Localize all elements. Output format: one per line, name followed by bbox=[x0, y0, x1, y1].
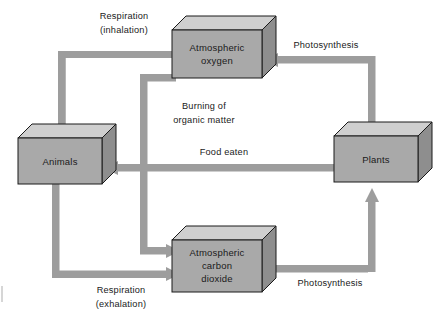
arrow-respiration-exhalation bbox=[52, 180, 180, 281]
edge-label-line: Respiration bbox=[97, 285, 146, 295]
edge-label-line: Burning of bbox=[182, 101, 226, 111]
edge-label-line: Photosynthesis bbox=[293, 40, 358, 50]
edge-label-burning-of-organic-matter: Burning of organic matter bbox=[173, 101, 235, 125]
node-label-line: Atmospheric bbox=[190, 247, 245, 258]
edge-label-line: Photosynthesis bbox=[297, 278, 362, 288]
arrow-photosynthesis-carbon-dioxide bbox=[276, 188, 379, 273]
node-label-line: carbon bbox=[202, 260, 232, 271]
node-animals[interactable]: Animals bbox=[18, 124, 116, 184]
box-top-face bbox=[334, 122, 432, 136]
box-top-face bbox=[172, 16, 276, 30]
box-top-face bbox=[18, 124, 116, 138]
edge-label-line: Respiration bbox=[100, 11, 149, 21]
node-atmospheric-carbon-dioxide[interactable]: Atmospheric carbon dioxide bbox=[172, 226, 276, 292]
node-label-line: Animals bbox=[42, 156, 77, 167]
diagram-canvas: Atmospheric oxygen Animals Plants Atmosp… bbox=[0, 0, 433, 324]
page-edge-artifact bbox=[1, 286, 3, 302]
edge-label-photosynthesis-carbon-dioxide: Photosynthesis bbox=[297, 278, 362, 288]
node-label-line: dioxide bbox=[201, 273, 233, 284]
cycle-diagram: Atmospheric oxygen Animals Plants Atmosp… bbox=[0, 0, 433, 324]
node-label-line: Plants bbox=[362, 154, 390, 165]
edge-label-respiration-exhalation: Respiration (exhalation) bbox=[96, 285, 146, 309]
edge-label-line: (exhalation) bbox=[96, 299, 146, 309]
edge-label-line: organic matter bbox=[173, 115, 235, 125]
node-plants[interactable]: Plants bbox=[334, 122, 432, 182]
edge-label-line: Food eaten bbox=[200, 147, 249, 157]
edge-label-line: (inhalation) bbox=[100, 25, 148, 35]
node-label-line: Atmospheric bbox=[190, 42, 245, 53]
box-top-face bbox=[172, 226, 276, 240]
edge-label-food-eaten: Food eaten bbox=[200, 147, 249, 157]
edge-label-photosynthesis-oxygen: Photosynthesis bbox=[293, 40, 358, 50]
arrow-food-eaten bbox=[104, 161, 336, 175]
node-atmospheric-oxygen[interactable]: Atmospheric oxygen bbox=[172, 16, 276, 78]
edge-label-respiration-inhalation: Respiration (inhalation) bbox=[100, 11, 149, 35]
node-label-line: oxygen bbox=[201, 55, 233, 66]
